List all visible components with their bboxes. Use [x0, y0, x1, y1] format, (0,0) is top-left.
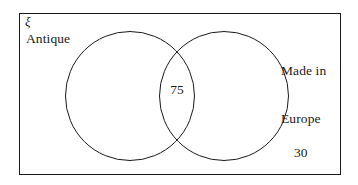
- set-label-antique: Antique: [26, 31, 70, 47]
- set-label-made-in-europe-line1: Made in: [281, 63, 326, 79]
- set-label-made-in-europe-line2: Europe: [281, 111, 326, 127]
- set-label-made-in-europe: Made in Europe: [281, 31, 326, 158]
- count-intersection: 75: [163, 82, 191, 98]
- venn-diagram: ξ Antique Made in Europe 75 30: [0, 0, 358, 185]
- count-outside-both: 30: [294, 145, 308, 161]
- universal-set-symbol: ξ: [25, 14, 31, 29]
